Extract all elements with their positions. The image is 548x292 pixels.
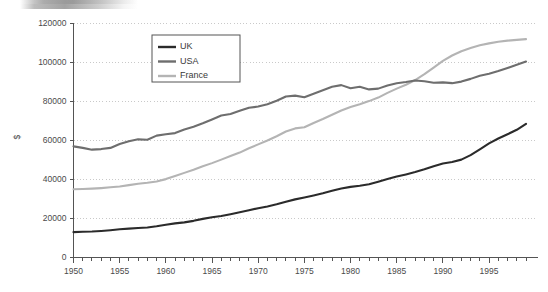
line-chart: 020000400006000080000100000120000 195019… [0, 0, 548, 292]
legend-label-uk: UK [180, 41, 193, 51]
y-tick-label: 20000 [43, 213, 67, 223]
x-tick-label: 1975 [295, 266, 314, 276]
x-tick-label: 1950 [64, 266, 83, 276]
x-tick-label: 1960 [156, 266, 175, 276]
y-tick-label: 0 [62, 252, 67, 262]
x-tick-label: 1955 [110, 266, 129, 276]
y-tick-label: 120000 [38, 18, 67, 28]
x-tick-label: 1990 [433, 266, 452, 276]
gridlines-group [74, 24, 539, 219]
legend-label-usa: USA [180, 56, 199, 66]
y-axis-tick-labels: 020000400006000080000100000120000 [38, 18, 67, 262]
x-tick-label: 1965 [203, 266, 222, 276]
x-tick-label: 1980 [341, 266, 360, 276]
y-tick-label: 40000 [43, 174, 67, 184]
x-axis-tick-labels: 1950195519601965197019751980198519901995 [64, 266, 499, 276]
chart-figure: 020000400006000080000100000120000 195019… [0, 0, 548, 292]
y-axis-title: $ [12, 134, 22, 139]
series-lines-group [74, 39, 527, 232]
x-tick-label: 1985 [387, 266, 406, 276]
series-line-usa [74, 62, 527, 150]
y-axis-ticks [70, 24, 74, 258]
scan-gradient-artifact-overlay [20, 0, 138, 4]
y-tick-label: 60000 [43, 135, 67, 145]
y-tick-label: 100000 [38, 57, 67, 67]
y-tick-label: 80000 [43, 96, 67, 106]
x-tick-label: 1995 [480, 266, 499, 276]
x-tick-label: 1970 [249, 266, 268, 276]
legend-label-france: France [180, 70, 208, 80]
chart-legend: UKUSAFrance [152, 35, 240, 82]
x-axis-ticks [74, 258, 527, 263]
series-line-france [74, 39, 527, 189]
